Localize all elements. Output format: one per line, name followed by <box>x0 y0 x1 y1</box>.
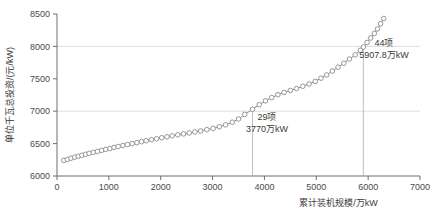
data-point-marker <box>324 73 329 78</box>
data-point-marker <box>236 117 241 122</box>
data-point-marker <box>307 82 312 87</box>
data-point-marker <box>121 143 126 148</box>
data-point-marker <box>341 61 346 66</box>
data-point-marker <box>365 40 370 45</box>
data-point-marker <box>170 134 175 139</box>
data-point-marker <box>294 86 299 91</box>
data-point-marker <box>301 84 306 89</box>
data-point-marker <box>313 79 318 84</box>
data-point-marker <box>378 21 383 26</box>
x-axis-title: 累计装机规模/万kW <box>299 197 378 208</box>
x-tick-label-5000: 5000 <box>306 182 326 192</box>
data-point-marker <box>223 123 228 128</box>
y-tick-label-8500: 8500 <box>30 9 50 19</box>
x-tick-label-2000: 2000 <box>151 182 171 192</box>
data-point-marker <box>250 107 255 112</box>
data-point-marker <box>217 124 222 129</box>
data-point-marker <box>263 99 268 104</box>
data-point-marker <box>139 139 144 144</box>
data-point-marker <box>144 138 149 143</box>
x-tick-label-7000: 7000 <box>410 182 430 192</box>
data-point-marker <box>125 142 130 147</box>
data-point-marker <box>230 120 235 125</box>
investment-cost-curve-chart: 600065007000750080008500 010002000300040… <box>0 0 437 215</box>
data-point-marker <box>187 131 192 136</box>
x-tick-label-0: 0 <box>54 182 59 192</box>
x-tick-label-4000: 4000 <box>254 182 274 192</box>
y-tick-label-8000: 8000 <box>30 42 50 52</box>
data-point-marker <box>211 126 216 131</box>
data-point-marker <box>336 65 341 70</box>
annotation-1-count: 29项 <box>257 112 276 122</box>
data-point-marker <box>381 16 386 21</box>
data-point-marker <box>361 45 366 50</box>
data-point-marker <box>205 127 210 132</box>
data-point-marker <box>375 27 380 32</box>
data-point-marker <box>257 102 262 107</box>
y-tick-label-7000: 7000 <box>30 106 50 116</box>
data-point-marker <box>282 90 287 95</box>
y-tick-label-6000: 6000 <box>30 171 50 181</box>
data-point-marker <box>154 136 159 141</box>
data-point-marker <box>372 31 377 36</box>
data-point-marker <box>149 137 154 142</box>
x-tick-label-3000: 3000 <box>203 182 223 192</box>
data-point-marker <box>193 130 198 135</box>
annotation-1-value: 3770万kW <box>246 124 289 134</box>
data-point-marker <box>347 57 352 62</box>
data-point-marker <box>330 69 335 74</box>
y-tick-label-6500: 6500 <box>30 139 50 149</box>
data-point-marker <box>353 53 358 58</box>
data-point-marker <box>135 140 140 145</box>
data-point-marker <box>130 141 135 146</box>
x-tick-label-6000: 6000 <box>358 182 378 192</box>
data-point-marker <box>198 129 203 134</box>
data-point-marker <box>242 112 247 117</box>
data-point-marker <box>159 135 164 140</box>
y-tick-label-7500: 7500 <box>30 74 50 84</box>
data-point-marker <box>319 76 324 81</box>
chart-container: 600065007000750080008500 010002000300040… <box>0 0 437 215</box>
data-point-marker <box>176 133 181 138</box>
data-point-marker <box>165 135 170 140</box>
data-point-marker <box>368 36 373 41</box>
data-point-marker <box>116 144 121 149</box>
data-point-marker <box>288 88 293 93</box>
annotation-2-count: 44项 <box>374 38 393 48</box>
data-point-marker <box>276 92 281 97</box>
y-axis-title: 单位千瓦总投资/(元/kW) <box>4 47 15 143</box>
x-tick-label-1000: 1000 <box>99 182 119 192</box>
annotation-2-value: 5907.8万kW <box>359 50 409 60</box>
data-point-marker <box>181 132 186 137</box>
data-point-marker <box>269 95 274 100</box>
